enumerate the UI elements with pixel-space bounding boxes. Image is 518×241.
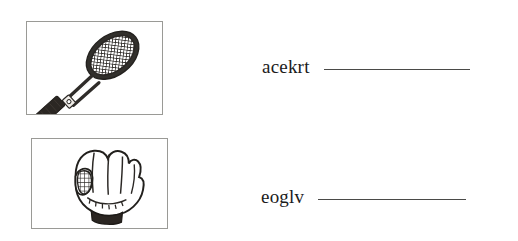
word-row: eoglv xyxy=(261,186,466,208)
baseball-glove-icon xyxy=(32,139,167,228)
tennis-racket-icon xyxy=(27,22,162,114)
scrambled-word-1: acekrt xyxy=(262,56,310,78)
scrambled-word-2: eoglv xyxy=(261,186,304,208)
picture-box-tennis-racket xyxy=(26,21,163,115)
answer-blank-1[interactable] xyxy=(324,69,470,70)
worksheet-page: acekrt eoglv xyxy=(0,0,518,241)
picture-box-baseball-glove xyxy=(31,138,168,229)
answer-blank-2[interactable] xyxy=(318,199,466,200)
word-row: acekrt xyxy=(262,56,470,78)
